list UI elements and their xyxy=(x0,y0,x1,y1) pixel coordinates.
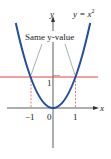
y-tick-label-1: 1 xyxy=(47,78,52,88)
annotation-same-y-value: Same y-value xyxy=(25,32,74,42)
x-tick-label-0: 0 xyxy=(47,112,52,122)
leader-line-left xyxy=(31,44,42,75)
x-tick-label-1: 1 xyxy=(73,112,78,122)
parabola-diagram: y x y = x2 Same y-value −1 0 1 1 xyxy=(0,0,111,159)
x-axis-arrow-icon xyxy=(93,106,99,110)
x-tick-label-neg1: −1 xyxy=(25,112,35,122)
leader-line-right xyxy=(65,44,75,75)
x-axis-label: x xyxy=(99,103,104,113)
y-axis-label: y xyxy=(49,9,54,19)
function-label: y = x2 xyxy=(72,8,95,19)
